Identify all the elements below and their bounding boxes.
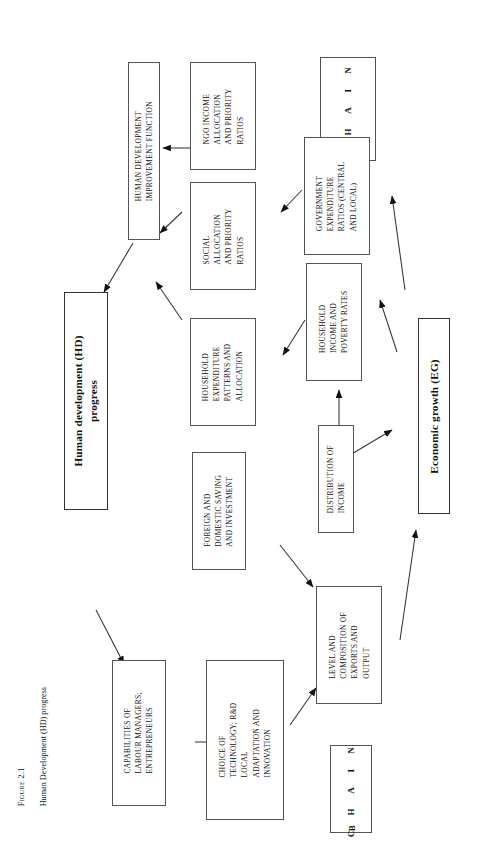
node-economic-growth[interactable]: Economic growth (EG) xyxy=(418,318,450,514)
node-label: NGO INCOME ALLOCATION AND PRIORITY RATIO… xyxy=(201,88,246,144)
node-label: Human development (HD) progress xyxy=(71,335,101,466)
arrow-hhexp-to-hdfunction xyxy=(156,282,182,320)
node-foreign-domestic-saving[interactable]: FOREIGN AND DOMESTIC SAVING AND INVESTME… xyxy=(192,452,246,570)
node-distribution-of-income[interactable]: DISTRIBUTION OF INCOME xyxy=(318,425,354,533)
node-government-expenditure[interactable]: GOVERNMENT EXPENDITURE RATIOS (CENTRAL A… xyxy=(304,137,370,255)
arrow-social-to-hdfunction xyxy=(160,212,182,233)
node-label: GOVERNMENT EXPENDITURE RATIOS (CENTRAL A… xyxy=(315,161,360,231)
arrow-distribution-to-eg xyxy=(350,430,392,455)
node-label: HOUSEHOLD INCOME AND POVERTY RATES xyxy=(317,291,351,353)
node-household-expenditure[interactable]: HOUSEHOLD EXPENDITURE PATTERNS AND ALLOC… xyxy=(190,318,256,426)
node-label: Economic growth (EG) xyxy=(427,359,442,473)
figure-caption-text: Human Development (HD) progress xyxy=(39,687,48,806)
node-label: HOUSEHOLD EXPENDITURE PATTERNS AND ALLOC… xyxy=(201,343,246,401)
node-label: FOREIGN AND DOMESTIC SAVING AND INVESTME… xyxy=(202,475,236,547)
node-hd-progress[interactable]: Human development (HD) progress xyxy=(64,292,108,510)
figure-label: Figure 2.1 xyxy=(17,767,26,806)
node-hd-improvement-function[interactable]: HUMAN DEVELOPMENT IMPROVEMENT FUNCTION xyxy=(128,62,160,240)
label-chain-b-letter: B xyxy=(330,745,372,833)
chain-b-letter: B xyxy=(346,819,358,832)
arrow-saving-to-level xyxy=(280,545,313,587)
node-label: SOCIAL ALLOCATION AND PRIORITY RATIOS xyxy=(201,208,246,264)
arrow-technology-to-level xyxy=(290,688,316,725)
node-choice-of-technology[interactable]: CHOICE OF TECHNOLOGY; R&D LOCAL ADAPTATI… xyxy=(206,660,284,820)
node-label: HUMAN DEVELOPMENT IMPROVEMENT FUNCTION xyxy=(133,101,155,201)
node-label: LEVEL AND COMPOSITION OF EXPORTS AND OUT… xyxy=(327,612,372,679)
node-ngo-income[interactable]: NGO INCOME ALLOCATION AND PRIORITY RATIO… xyxy=(190,62,256,170)
figure-caption: Figure 2.1 Human Development (HD) progre… xyxy=(2,630,42,790)
arrow-hdprogress-to-capabilities xyxy=(96,610,124,664)
node-label: CHOICE OF TECHNOLOGY; R&D LOCAL ADAPTATI… xyxy=(217,703,273,778)
node-label: DISTRIBUTION OF INCOME xyxy=(325,445,347,513)
arrow-eg-to-hhincome xyxy=(380,300,397,352)
arrow-hhincome-to-hhexp xyxy=(283,320,305,355)
arrow-eg-to-govexp xyxy=(392,196,405,290)
node-capabilities-labour[interactable]: CAPABILITIES OF LABOUR MANAGERS; ENTREPR… xyxy=(112,660,166,806)
node-social-allocation[interactable]: SOCIAL ALLOCATION AND PRIORITY RATIOS xyxy=(190,182,256,290)
arrow-level-to-eg xyxy=(400,530,416,640)
arrow-govexp-to-social xyxy=(281,190,302,212)
node-label: CAPABILITIES OF LABOUR MANAGERS; ENTREPR… xyxy=(122,692,156,773)
arrow-hdfunction-to-hdprogress xyxy=(104,243,133,292)
node-level-composition-exports[interactable]: LEVEL AND COMPOSITION OF EXPORTS AND OUT… xyxy=(316,586,382,704)
node-household-income[interactable]: HOUSEHOLD INCOME AND POVERTY RATES xyxy=(306,263,362,381)
